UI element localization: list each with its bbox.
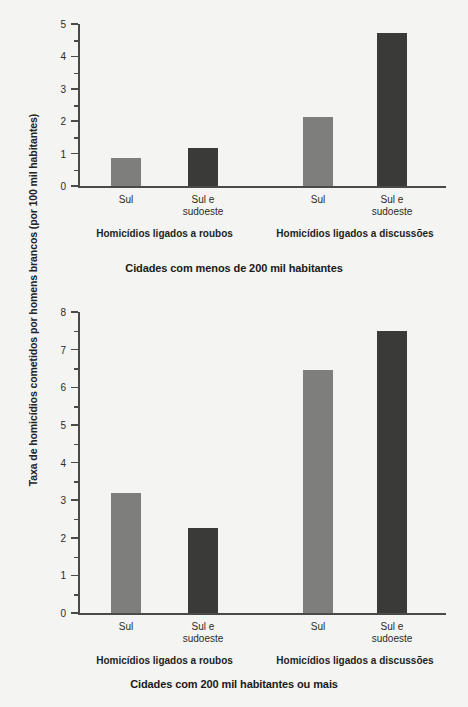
y-tick-4 bbox=[71, 56, 78, 58]
y-tick-4 bbox=[71, 462, 78, 464]
bar bbox=[377, 331, 407, 613]
y-minor-tick bbox=[74, 406, 78, 408]
x-group-label: Homicídios ligados a discussões bbox=[260, 228, 450, 239]
y-tick-label-3: 3 bbox=[44, 495, 66, 506]
panel-top: 012345SulSul e sudoesteHomicídios ligado… bbox=[0, 0, 468, 290]
y-tick-1 bbox=[71, 575, 78, 577]
panel-bottom-caption: Cidades com 200 mil habitantes ou mais bbox=[0, 678, 468, 690]
y-tick-3 bbox=[71, 88, 78, 90]
y-tick-0 bbox=[71, 612, 78, 614]
y-tick-2 bbox=[71, 537, 78, 539]
y-minor-tick bbox=[74, 594, 78, 596]
bar bbox=[303, 370, 333, 613]
y-tick-label-5: 5 bbox=[44, 419, 66, 430]
y-minor-tick bbox=[74, 519, 78, 521]
y-tick-label-1: 1 bbox=[44, 148, 66, 159]
y-tick-8 bbox=[71, 311, 78, 313]
x-category-label: Sul e sudoeste bbox=[352, 194, 432, 218]
bar bbox=[188, 148, 218, 186]
y-tick-label-6: 6 bbox=[44, 382, 66, 393]
y-tick-2 bbox=[71, 120, 78, 122]
x-axis-line bbox=[78, 613, 446, 615]
y-minor-tick bbox=[74, 331, 78, 333]
y-minor-tick bbox=[74, 444, 78, 446]
y-tick-5 bbox=[71, 23, 78, 25]
x-category-label: Sul bbox=[278, 621, 358, 633]
plot-area-top: 012345SulSul e sudoesteHomicídios ligado… bbox=[78, 24, 446, 186]
y-minor-tick bbox=[74, 170, 78, 172]
y-tick-label-2: 2 bbox=[44, 116, 66, 127]
y-tick-label-3: 3 bbox=[44, 83, 66, 94]
x-axis-line bbox=[78, 186, 446, 188]
panel-top-caption: Cidades com menos de 200 mil habitantes bbox=[0, 262, 468, 274]
x-category-label: Sul e sudoeste bbox=[163, 621, 243, 645]
y-tick-5 bbox=[71, 424, 78, 426]
plot-area-bottom: 012345678SulSul e sudoesteHomicídios lig… bbox=[78, 312, 446, 613]
x-group-label: Homicídios ligados a roubos bbox=[70, 655, 260, 666]
y-tick-label-0: 0 bbox=[44, 181, 66, 192]
x-category-label: Sul bbox=[86, 621, 166, 633]
y-tick-label-8: 8 bbox=[44, 307, 66, 318]
x-category-label: Sul e sudoeste bbox=[163, 194, 243, 218]
y-tick-label-4: 4 bbox=[44, 457, 66, 468]
bar bbox=[111, 158, 141, 186]
y-tick-label-0: 0 bbox=[44, 608, 66, 619]
bar bbox=[111, 493, 141, 613]
y-tick-0 bbox=[71, 185, 78, 187]
y-tick-7 bbox=[71, 349, 78, 351]
y-tick-label-2: 2 bbox=[44, 532, 66, 543]
bar bbox=[188, 528, 218, 613]
x-category-label: Sul bbox=[86, 194, 166, 206]
y-minor-tick bbox=[74, 368, 78, 370]
bar bbox=[303, 117, 333, 186]
y-minor-tick bbox=[74, 557, 78, 559]
y-tick-6 bbox=[71, 387, 78, 389]
y-minor-tick bbox=[74, 137, 78, 139]
y-tick-label-5: 5 bbox=[44, 19, 66, 30]
y-minor-tick bbox=[74, 481, 78, 483]
y-tick-3 bbox=[71, 499, 78, 501]
y-tick-label-1: 1 bbox=[44, 570, 66, 581]
x-category-label: Sul bbox=[278, 194, 358, 206]
y-axis-line bbox=[78, 24, 80, 186]
y-minor-tick bbox=[74, 105, 78, 107]
y-axis-line bbox=[78, 312, 80, 613]
chart-figure: Taxa de homicídios cometidos por homens … bbox=[0, 0, 468, 707]
x-group-label: Homicídios ligados a discussões bbox=[260, 655, 450, 666]
y-minor-tick bbox=[74, 73, 78, 75]
y-tick-label-7: 7 bbox=[44, 344, 66, 355]
y-minor-tick bbox=[74, 40, 78, 42]
y-tick-1 bbox=[71, 153, 78, 155]
x-group-label: Homicídios ligados a roubos bbox=[70, 228, 260, 239]
bar bbox=[377, 33, 407, 186]
x-category-label: Sul e sudoeste bbox=[352, 621, 432, 645]
y-tick-label-4: 4 bbox=[44, 51, 66, 62]
panel-bottom: 012345678SulSul e sudoesteHomicídios lig… bbox=[0, 290, 468, 707]
